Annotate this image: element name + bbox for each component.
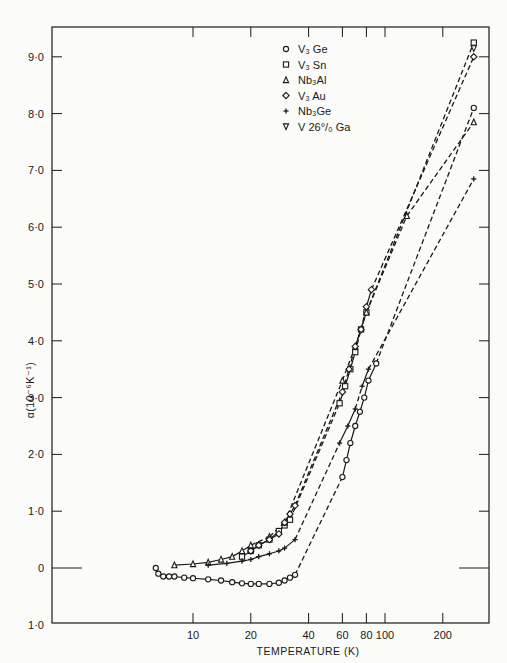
plot-frame <box>52 27 489 623</box>
y-tick-label: 1·0 <box>28 619 44 631</box>
circle-marker-icon <box>230 580 235 585</box>
thermal-expansion-chart: 9·08·07·06·05·04·03·02·01·001·0 10204060… <box>0 0 507 663</box>
circle-marker-icon <box>276 580 281 585</box>
plus-marker-icon <box>256 554 261 559</box>
curve-solid <box>242 312 366 556</box>
plus-marker-icon <box>471 176 476 181</box>
plus-marker-icon <box>360 384 365 389</box>
triangle-down-marker-icon <box>283 124 288 130</box>
triangle-up-marker-icon <box>230 554 235 560</box>
triangle-down-marker-icon <box>471 46 476 52</box>
circle-marker-icon <box>353 423 358 428</box>
triangle-up-marker-icon <box>239 548 244 554</box>
circle-marker-icon <box>172 574 177 579</box>
circle-marker-icon <box>248 581 253 586</box>
circle-marker-icon <box>218 578 223 583</box>
square-marker-icon <box>337 401 342 406</box>
x-tick-label: 100 <box>376 629 394 641</box>
circle-marker-icon <box>256 581 261 586</box>
circle-marker-icon <box>282 578 287 583</box>
circle-marker-icon <box>161 574 166 579</box>
plus-marker-icon <box>337 440 342 445</box>
diamond-marker-icon <box>471 54 477 60</box>
triangle-up-marker-icon <box>283 77 288 83</box>
plot-border <box>52 27 489 623</box>
circle-marker-icon <box>267 581 272 586</box>
circle-marker-icon <box>357 409 362 414</box>
plus-marker-icon <box>276 548 281 553</box>
legend: V₃ GeV₃ SnNb₃AlV₃ AuNb₃GeV 26°/₀ Ga <box>283 43 351 133</box>
y-tick-label: 4·0 <box>28 335 44 347</box>
circle-marker-icon <box>344 457 349 462</box>
y-tick-label: 5·0 <box>28 278 44 290</box>
plus-marker-icon <box>283 108 288 113</box>
square-marker-icon <box>283 62 288 67</box>
circle-marker-icon <box>153 565 158 570</box>
y-tick-label: 7·0 <box>28 164 44 176</box>
y-tick-label: 8·0 <box>28 108 44 120</box>
square-marker-icon <box>343 384 348 389</box>
y-tick-label: 2·0 <box>28 448 44 460</box>
legend-entry-label: V₃ Au <box>298 90 326 102</box>
diamond-marker-icon <box>363 304 369 310</box>
legend-entry-label: V₃ Sn <box>298 59 326 71</box>
circle-marker-icon <box>348 440 353 445</box>
diamond-marker-icon <box>368 286 374 292</box>
diamond-marker-icon <box>283 92 289 98</box>
circle-marker-icon <box>206 577 211 582</box>
plus-marker-icon <box>267 551 272 556</box>
square-marker-icon <box>239 554 244 559</box>
circle-marker-icon <box>374 361 379 366</box>
plus-marker-icon <box>345 423 350 428</box>
curve-dashed <box>295 179 474 540</box>
triangle-up-marker-icon <box>471 119 476 125</box>
square-marker-icon <box>471 40 476 45</box>
triangle-up-marker-icon <box>172 562 177 568</box>
legend-entry-label: Nb₃Al <box>298 74 326 86</box>
x-tick-label: 40 <box>302 629 314 641</box>
plus-marker-icon <box>248 557 253 562</box>
x-tick-label: 10 <box>187 629 199 641</box>
circle-marker-icon <box>287 575 292 580</box>
circle-marker-icon <box>362 395 367 400</box>
y-tick-label: 9·0 <box>28 51 44 63</box>
circle-marker-icon <box>156 571 161 576</box>
circle-marker-icon <box>366 378 371 383</box>
curve-solid <box>156 364 376 584</box>
triangle-up-marker-icon <box>340 377 345 383</box>
x-axis-label: TEMPERATURE (K) <box>257 645 360 657</box>
circle-marker-icon <box>182 575 187 580</box>
circle-marker-icon <box>166 574 171 579</box>
circle-marker-icon <box>471 105 476 110</box>
legend-entry-label: Nb₃Ge <box>298 105 331 117</box>
curve-dashed <box>251 122 474 545</box>
diamond-marker-icon <box>287 511 293 517</box>
circle-marker-icon <box>340 475 345 480</box>
x-axis: 1020406080100200 <box>187 27 452 641</box>
plus-marker-icon <box>224 561 229 566</box>
y-axis-label: α(10⁻⁶K⁻¹) <box>24 362 36 419</box>
plus-marker-icon <box>366 367 371 372</box>
y-tick-label: 6·0 <box>28 221 44 233</box>
x-tick-label: 60 <box>336 629 348 641</box>
y-tick-label: 1·0 <box>28 505 44 517</box>
x-tick-label: 80 <box>360 629 372 641</box>
circle-marker-icon <box>283 46 288 51</box>
x-tick-label: 20 <box>245 629 257 641</box>
legend-entry-label: V₃ Ge <box>298 43 328 55</box>
legend-entry-label: V 26°/₀ Ga <box>298 121 351 133</box>
x-tick-label: 200 <box>434 629 452 641</box>
y-tick-label: 0 <box>38 562 44 574</box>
triangle-up-marker-icon <box>190 561 195 567</box>
triangle-up-marker-icon <box>218 556 223 562</box>
circle-marker-icon <box>239 581 244 586</box>
circle-marker-icon <box>190 576 195 581</box>
curve-solid <box>251 290 372 551</box>
circle-marker-icon <box>292 572 297 577</box>
